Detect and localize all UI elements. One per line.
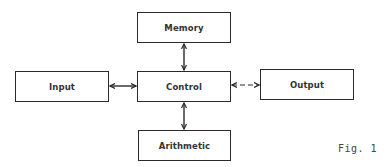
- input-label: Input: [49, 82, 75, 92]
- arithmetic-block: Arithmetic: [138, 130, 231, 161]
- control-label: Control: [166, 82, 202, 92]
- figure-caption: Fig. 1: [338, 143, 377, 154]
- control-block: Control: [137, 71, 231, 102]
- memory-block: Memory: [137, 12, 231, 43]
- computer-block-diagram: Memory Input Control Output Arithmetic F…: [0, 0, 388, 167]
- output-block: Output: [260, 69, 354, 100]
- output-label: Output: [290, 80, 324, 90]
- memory-label: Memory: [164, 23, 203, 33]
- input-block: Input: [15, 71, 109, 102]
- arithmetic-label: Arithmetic: [159, 141, 210, 151]
